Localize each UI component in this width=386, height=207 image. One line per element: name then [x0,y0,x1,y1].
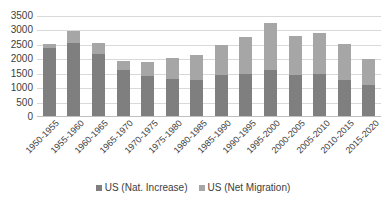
bar-segment[interactable] [117,61,130,70]
bar-segment[interactable] [43,48,56,117]
legend-label: US (Nat. Increase) [105,183,188,193]
bar-series-container [37,16,381,117]
x-axis-line [37,116,381,117]
bar-group[interactable] [92,16,105,117]
bar-group[interactable] [215,16,228,117]
bar-group[interactable] [264,16,277,117]
y-axis-tick-label: 3500 [11,11,33,21]
bar-segment[interactable] [362,59,375,85]
bar-group[interactable] [338,16,351,117]
y-axis-tick-label: 3000 [11,25,33,35]
bar-segment[interactable] [264,23,277,70]
x-axis: 1950-19551955-19601960-19651965-19701970… [37,118,381,176]
bar-group[interactable] [289,16,302,117]
bar-group[interactable] [190,16,203,117]
bar-segment[interactable] [289,75,302,117]
bar-group[interactable] [117,16,130,117]
bar-segment[interactable] [190,55,203,79]
bar-segment[interactable] [313,33,326,73]
bar-segment[interactable] [67,43,80,117]
bar-segment[interactable] [289,36,302,75]
bar-segment[interactable] [190,80,203,118]
legend-item[interactable]: US (Nat. Increase) [96,183,188,193]
chart-legend: US (Nat. Increase)US (Net Migration) [0,183,386,193]
bar-segment[interactable] [338,80,351,118]
bar-segment[interactable] [313,74,326,117]
bar-segment[interactable] [264,70,277,117]
bar-segment[interactable] [166,58,179,78]
y-axis-tick-label: 2500 [11,40,33,50]
bar-segment[interactable] [166,79,179,117]
bar-group[interactable] [362,16,375,117]
bar-group[interactable] [239,16,252,117]
y-axis-tick-label: 500 [16,98,33,108]
bar-segment[interactable] [117,70,130,117]
bar-group[interactable] [141,16,154,117]
bar-segment[interactable] [239,74,252,117]
legend-swatch-icon [96,185,102,191]
legend-item[interactable]: US (Net Migration) [199,183,291,193]
bar-segment[interactable] [67,31,80,43]
plot-area [37,16,381,117]
y-axis-tick-label: 0 [27,112,33,122]
y-axis-tick-label: 1000 [11,83,33,93]
bar-segment[interactable] [92,43,105,53]
bar-segment[interactable] [92,54,105,117]
legend-label: US (Net Migration) [208,183,291,193]
y-axis: 3500300025002000150010005000 [0,16,33,117]
bar-segment[interactable] [239,37,252,74]
y-axis-tick-label: 2000 [11,54,33,64]
bar-segment[interactable] [43,44,56,48]
bar-segment[interactable] [338,44,351,79]
bar-segment[interactable] [141,76,154,117]
bar-group[interactable] [313,16,326,117]
stacked-bar-chart: 3500300025002000150010005000 1950-195519… [0,0,386,207]
bar-group[interactable] [166,16,179,117]
bar-segment[interactable] [362,85,375,117]
bar-segment[interactable] [141,62,154,76]
legend-swatch-icon [199,185,205,191]
bar-segment[interactable] [215,75,228,117]
bar-group[interactable] [67,16,80,117]
bar-segment[interactable] [215,45,228,75]
bar-group[interactable] [43,16,56,117]
y-axis-tick-label: 1500 [11,69,33,79]
